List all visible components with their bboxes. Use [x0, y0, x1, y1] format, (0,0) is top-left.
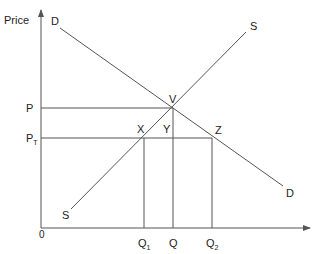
q1-label: Q1 [138, 237, 151, 251]
supply-demand-diagram: Price 0 D D S S P PT Q1 Q Q2 V X Y Z [0, 0, 319, 254]
q-label: Q [169, 237, 178, 249]
supply-curve [71, 32, 246, 209]
y-axis-label: Price [4, 14, 29, 26]
q2-label: Q2 [206, 237, 219, 251]
price-pt-label: PT [26, 132, 38, 146]
point-x-label: X [137, 123, 145, 135]
point-v-label: V [169, 93, 177, 105]
point-z-label: Z [215, 124, 222, 136]
supply-label-top: S [250, 20, 257, 32]
demand-label-top: D [51, 15, 59, 27]
supply-label-bottom: S [62, 209, 69, 221]
point-y-label: Y [163, 123, 171, 135]
price-p-label: P [26, 102, 33, 114]
demand-label-bottom: D [286, 187, 294, 199]
origin-label: 0 [39, 229, 45, 240]
